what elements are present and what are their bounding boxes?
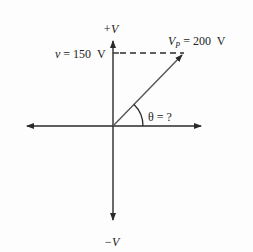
positive-voltage-label: +V bbox=[103, 22, 120, 36]
peak-voltage-value: = 200 V bbox=[180, 34, 226, 48]
phasor-diagram: +V −V v = 150 V VP = 200 V θ = ? bbox=[0, 0, 253, 252]
angle-arc bbox=[134, 105, 143, 127]
peak-voltage-label: VP = 200 V bbox=[168, 34, 226, 50]
angle-label: θ = ? bbox=[148, 110, 172, 124]
instantaneous-voltage-label: v = 150 V bbox=[55, 47, 106, 61]
negative-voltage-label: −V bbox=[104, 235, 121, 249]
instantaneous-voltage-value: = 150 V bbox=[60, 47, 106, 61]
